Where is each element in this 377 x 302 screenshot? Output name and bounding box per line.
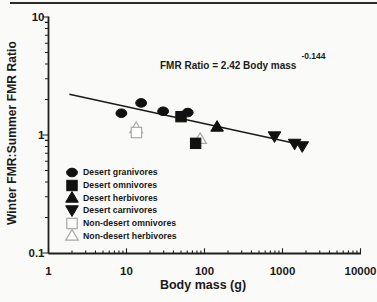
legend-label: Desert granivores <box>83 167 158 177</box>
regression-equation: FMR Ratio = 2.42 Body mass -0.144 <box>160 51 326 71</box>
x-tick-label: 1 <box>45 265 52 277</box>
legend-label: Desert herbivores <box>83 193 158 203</box>
legend-item-desert-herbivores: Desert herbivores <box>64 191 177 204</box>
legend-label: Non-desert omnivores <box>83 218 176 228</box>
legend-label: Non-desert herbivores <box>83 231 177 241</box>
desert-carnivores-symbol-icon <box>64 204 81 217</box>
legend-item-non-desert-omnivores: Non-desert omnivores <box>64 217 177 230</box>
figure-page: 1101001000100000.1110 Winter FMR:Summer … <box>0 0 377 302</box>
non-desert-herbivores-symbol-icon <box>64 229 81 242</box>
desert-granivores-symbol-icon <box>64 166 81 179</box>
desert-carnivores-point <box>296 142 309 153</box>
x-tick-label: 10000 <box>345 265 377 277</box>
chart-canvas: 1101001000100000.1110 <box>0 0 377 302</box>
y-tick-label: 1 <box>38 129 45 141</box>
legend-item-desert-granivores: Desert granivores <box>64 166 177 179</box>
legend-item-non-desert-herbivores: Non-desert herbivores <box>64 229 177 242</box>
legend-item-desert-omnivores: Desert omnivores <box>64 179 177 192</box>
desert-herbivores-symbol-icon <box>64 191 81 204</box>
equation-exponent: -0.144 <box>301 51 325 61</box>
desert-omnivores-point <box>190 138 200 148</box>
x-axis-title: Body mass (g) <box>138 278 268 292</box>
desert-omnivores-symbol-icon <box>64 179 81 192</box>
y-axis-title: Winter FMR:Summer FMR Ratio <box>5 33 19 233</box>
y-tick-label: 10 <box>32 11 45 23</box>
desert-carnivores-point <box>268 132 281 143</box>
desert-granivores-point <box>158 107 169 116</box>
legend-label: Desert carnivores <box>83 205 157 215</box>
desert-granivores-point <box>182 108 193 117</box>
non-desert-omnivores-point <box>131 127 141 137</box>
x-tick-label: 10 <box>120 265 133 277</box>
x-tick-label: 100 <box>195 265 214 277</box>
legend-item-desert-carnivores: Desert carnivores <box>64 204 177 217</box>
y-tick-label: 0.1 <box>29 247 46 259</box>
x-tick-label: 1000 <box>270 265 296 277</box>
equation-text: FMR Ratio = 2.42 Body mass <box>160 60 296 71</box>
desert-granivores-point <box>116 109 127 118</box>
non-desert-omnivores-symbol-icon <box>64 217 81 230</box>
chart-legend: Desert granivoresDesert omnivoresDesert … <box>64 166 177 242</box>
regression-line <box>69 94 306 146</box>
desert-granivores-point <box>136 99 147 108</box>
legend-label: Desert omnivores <box>83 180 157 190</box>
